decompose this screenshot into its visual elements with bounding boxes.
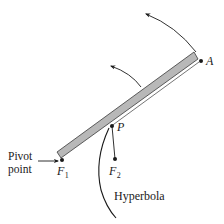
rotation-arrow-outer xyxy=(146,14,196,52)
point-F1-dot xyxy=(60,158,64,162)
point-F2-dot xyxy=(113,157,117,161)
point-A-dot xyxy=(199,59,203,63)
label-F1-subscript: 1 xyxy=(65,171,69,180)
hyperbola-rod-diagram: Pivot point A P F1 F2 Hyperbola xyxy=(0,0,224,224)
segment-P-F2 xyxy=(112,126,115,159)
pivot-label-line1: Pivot xyxy=(8,150,32,163)
label-F2-letter: F xyxy=(109,164,116,178)
label-P: P xyxy=(117,121,124,133)
label-A: A xyxy=(206,55,213,67)
pivot-label-line2: point xyxy=(8,163,32,176)
label-F1-letter: F xyxy=(57,164,64,178)
point-P-dot xyxy=(110,124,114,128)
label-F2-subscript: 2 xyxy=(117,171,121,180)
rotation-arrow-inner xyxy=(111,66,141,87)
label-hyperbola: Hyperbola xyxy=(114,190,165,202)
label-F2: F2 xyxy=(109,165,121,180)
pivot-point-label: Pivot point xyxy=(8,150,32,176)
diagram-canvas xyxy=(0,0,224,224)
label-F1: F1 xyxy=(57,165,69,180)
rod xyxy=(57,52,198,158)
